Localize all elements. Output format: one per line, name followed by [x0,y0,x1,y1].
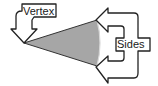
vertex-label: Vertex [23,5,55,17]
angle-sector [24,20,100,66]
sides-label: Sides [117,38,145,50]
angle-diagram: Vertex Sides [0,0,158,86]
